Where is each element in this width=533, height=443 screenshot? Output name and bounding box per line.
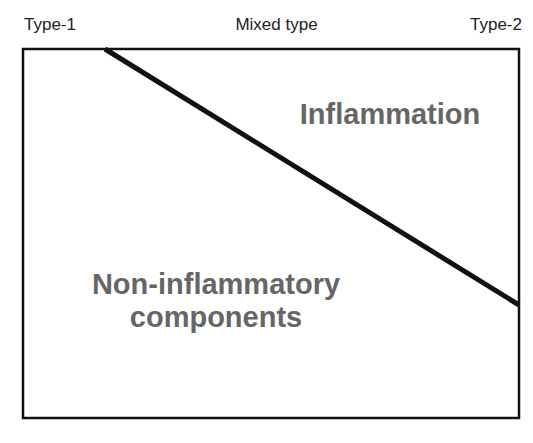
inflammation-label: Inflammation: [280, 98, 500, 131]
non-inflammatory-label: Non-inflammatory components: [66, 268, 366, 334]
non-inflammatory-line1: Non-inflammatory: [66, 268, 366, 301]
diagram-frame: [0, 0, 533, 443]
non-inflammatory-line2: components: [66, 301, 366, 334]
divider-line: [105, 49, 519, 305]
